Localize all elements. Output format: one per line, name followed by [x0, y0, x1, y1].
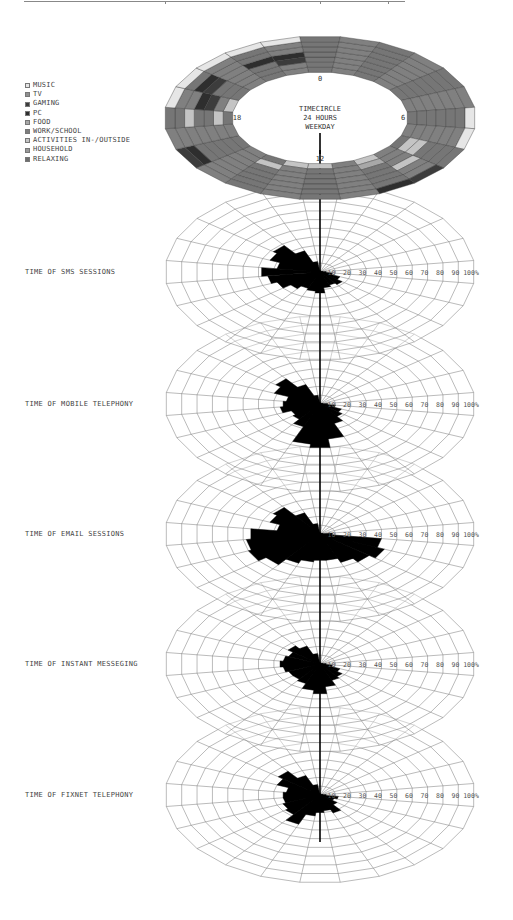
axis-tick-label: 70 — [421, 401, 429, 409]
axis-tick-label: 10 — [328, 661, 336, 669]
axis-tick-label: 50 — [390, 531, 398, 539]
axis-tick-label: 70 — [421, 531, 429, 539]
axis-tick-label: 90 — [452, 531, 460, 539]
axis-tick-label: 80 — [436, 531, 444, 539]
axis-tick-label: 10 — [328, 531, 336, 539]
axis-tick-label: 40 — [374, 269, 382, 277]
axis-tick-label: 100% — [463, 792, 479, 800]
timecircle-title: 24 HOURS — [303, 114, 337, 122]
axis-tick-label: 20 — [343, 531, 351, 539]
timecircle-title: TIMECIRCLE — [299, 105, 341, 113]
axis-tick-label: 80 — [436, 401, 444, 409]
axis-tick-label: 90 — [452, 792, 460, 800]
axis-tick-label: 80 — [436, 661, 444, 669]
axis-tick-label: 100% — [463, 269, 479, 277]
axis-tick-label: 20 — [343, 269, 351, 277]
axis-tick-label: 70 — [421, 269, 429, 277]
hour-label: 6 — [401, 114, 405, 122]
axis-tick-label: 90 — [452, 401, 460, 409]
chart-canvas: 102030405060708090100%102030405060708090… — [0, 0, 513, 920]
axis-tick-label: 10 — [328, 269, 336, 277]
axis-tick-label: 30 — [359, 531, 367, 539]
axis-tick-label: 50 — [390, 792, 398, 800]
axis-tick-label: 40 — [374, 531, 382, 539]
axis-tick-label: 90 — [452, 661, 460, 669]
axis-tick-label: 30 — [359, 792, 367, 800]
axis-tick-label: 100% — [463, 401, 479, 409]
hour-label: 18 — [233, 114, 241, 122]
timecircle-title: WEEKDAY — [305, 123, 335, 131]
axis-tick-label: 80 — [436, 269, 444, 277]
axis-tick-label: 40 — [374, 401, 382, 409]
axis-tick-label: 70 — [421, 792, 429, 800]
axis-tick-label: 30 — [359, 401, 367, 409]
axis-tick-label: 60 — [405, 661, 413, 669]
axis-tick-label: 20 — [343, 661, 351, 669]
axis-tick-label: 100% — [463, 661, 479, 669]
axis-tick-label: 30 — [359, 269, 367, 277]
axis-tick-label: 40 — [374, 661, 382, 669]
axis-tick-label: 20 — [343, 792, 351, 800]
polar-chart: 102030405060708090100% — [166, 185, 479, 359]
axis-tick-label: 50 — [390, 401, 398, 409]
axis-tick-label: 10 — [328, 792, 336, 800]
axis-tick-label: 40 — [374, 792, 382, 800]
axis-tick-label: 100% — [463, 531, 479, 539]
axis-tick-label: 10 — [328, 401, 336, 409]
axis-tick-label: 60 — [405, 792, 413, 800]
axis-tick-label: 80 — [436, 792, 444, 800]
axis-tick-label: 30 — [359, 661, 367, 669]
axis-tick-label: 60 — [405, 531, 413, 539]
axis-tick-label: 60 — [405, 269, 413, 277]
timecircle-ring: 061218TIMECIRCLE24 HOURSWEEKDAY — [165, 37, 474, 200]
axis-tick-label: 50 — [390, 269, 398, 277]
axis-tick-label: 50 — [390, 661, 398, 669]
axis-tick-label: 90 — [452, 269, 460, 277]
axis-tick-label: 60 — [405, 401, 413, 409]
hour-label: 12 — [316, 155, 324, 163]
axis-tick-label: 70 — [421, 661, 429, 669]
axis-tick-label: 20 — [343, 401, 351, 409]
hour-label: 0 — [318, 75, 322, 83]
